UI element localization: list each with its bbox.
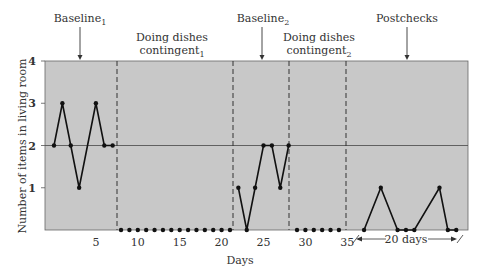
data-point [203,228,207,232]
data-point [94,101,98,105]
y-tick-label: 4 [28,55,36,68]
phase-label-baseline-2: Baseline2 [237,12,290,27]
x-tick-label: 5 [92,236,99,249]
data-point [110,143,114,147]
data-point [303,228,307,232]
chart: 12345101520253035DaysNumber of items in … [0,0,484,274]
data-point [328,228,332,232]
data-point [228,228,232,232]
data-point [136,228,140,232]
data-point [119,228,123,232]
y-tick-label: 3 [28,97,36,110]
data-point [219,228,223,232]
x-tick-label: 30 [298,236,312,249]
data-point [102,143,106,147]
data-point [446,228,450,232]
arrowhead-icon [260,55,265,60]
data-point [437,186,441,190]
phase-label-contingent-1-line2: contingent1 [139,44,204,59]
data-point [270,143,274,147]
y-axis-title: Number of items in living room [16,58,29,234]
data-point [178,228,182,232]
phase-label-contingent-2-line2: contingent2 [286,44,351,59]
data-point [69,143,73,147]
x-tick-label: 10 [131,236,145,249]
data-point [236,186,240,190]
data-point [412,228,416,232]
postcheck-span-label: 20 days [385,233,428,246]
data-point [186,228,190,232]
x-tick-label: 25 [257,236,271,249]
data-point [278,186,282,190]
phase-label-contingent-1-line1: Doing dishes [136,31,208,44]
phase-label-baseline-1: Baseline1 [54,12,107,27]
data-point [454,228,458,232]
x-tick-label: 20 [215,236,229,249]
data-point [77,186,81,190]
x-axis-title: Days [226,254,254,267]
span-arrow-right-icon [451,237,457,242]
data-point [320,228,324,232]
x-tick-label: 15 [173,236,187,249]
data-point [152,228,156,232]
data-point [395,228,399,232]
data-point [245,228,249,232]
data-point [286,143,290,147]
arrowhead-icon [78,55,83,60]
data-point [60,101,64,105]
data-point [379,186,383,190]
data-point [337,228,341,232]
phase-label-contingent-2-line1: Doing dishes [283,31,355,44]
data-point [144,228,148,232]
data-point [127,228,131,232]
data-point [169,228,173,232]
data-point [194,228,198,232]
arrowhead-icon [405,55,410,60]
data-point [253,186,257,190]
span-break-right [457,235,463,243]
data-point [295,228,299,232]
data-point [211,228,215,232]
y-tick-label: 2 [28,140,36,153]
data-point [362,228,366,232]
data-point [312,228,316,232]
y-tick-label: 1 [28,182,36,195]
data-point [52,143,56,147]
phase-label-postchecks: Postchecks [376,12,438,25]
data-point [161,228,165,232]
x-tick-label: 35 [340,236,354,249]
data-point [404,228,408,232]
data-point [261,143,265,147]
